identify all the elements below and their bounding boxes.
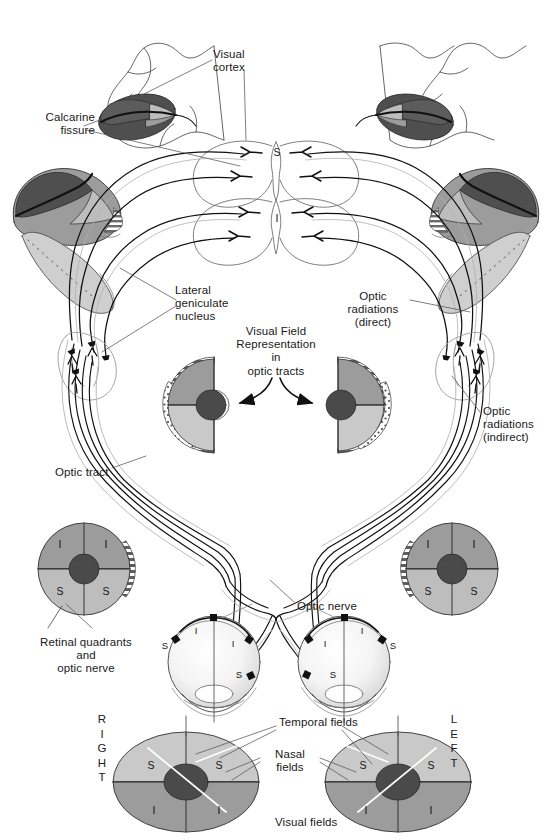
field-left-marker-s-2: S — [212, 760, 226, 771]
label-optic-radiations-direct: Optic radiations (direct) — [330, 290, 416, 330]
cortex-marker-superior: S — [270, 147, 284, 158]
eye-right-marker-s-2: S — [326, 669, 340, 680]
lgn-body-right — [436, 332, 494, 400]
field-left-marker-s-1: S — [144, 760, 158, 771]
lgn-synapses-left — [67, 341, 110, 393]
eyeball-left — [168, 604, 260, 722]
lgn-body-left — [58, 332, 116, 400]
retina-right-marker-s-2: S — [467, 586, 481, 597]
label-visual-cortex: Visual cortex — [213, 48, 245, 74]
eye-right-marker-i-2: I — [318, 638, 332, 649]
eye-left-marker-i-2: I — [226, 638, 240, 649]
visual-field-ellipse-left — [113, 716, 259, 832]
lgn-synapses-right — [442, 341, 485, 393]
label-visual-field-representation: Visual Field Representation in optic tra… — [215, 325, 337, 378]
eye-left-marker-i-1: I — [189, 625, 203, 636]
retina-right-marker-i-1: I — [421, 539, 435, 550]
retina-disc-right — [400, 523, 498, 615]
retina-left-marker-i-1: I — [53, 539, 67, 550]
cortex-marker-inferior: I — [270, 213, 284, 224]
label-lateral-geniculate-nucleus: Lateral geniculate nucleus — [175, 284, 228, 324]
retina-left-marker-s-1: S — [53, 586, 67, 597]
label-right-side: R I G H T — [94, 712, 110, 785]
retina-left-marker-s-2: S — [99, 586, 113, 597]
field-left-marker-i-2: I — [212, 805, 226, 816]
eye-right-marker-s-1: S — [386, 640, 400, 651]
field-left-marker-i-1: I — [147, 805, 161, 816]
eye-left-marker-s-1: S — [158, 640, 172, 651]
field-right-marker-s-1: S — [356, 760, 370, 771]
label-retinal-quadrants: Retinal quadrants and optic nerve — [20, 636, 152, 676]
label-calcarine-fissure: Calcarine fissure — [0, 111, 95, 137]
cortex-fiber-endings — [229, 147, 323, 241]
label-temporal-fields: Temporal fields — [279, 716, 358, 729]
retina-right-marker-s-1: S — [421, 586, 435, 597]
label-visual-fields: Visual fields — [275, 816, 337, 829]
field-right-marker-s-2: S — [424, 760, 438, 771]
right-calcarine-wedge-top — [356, 87, 458, 146]
eyeball-right — [298, 604, 390, 722]
eye-right-marker-i-1: I — [355, 625, 369, 636]
label-left-side: L E F T — [446, 712, 462, 770]
central-cortex-outline — [193, 141, 358, 265]
label-optic-radiations-indirect: Optic radiations (indirect) — [483, 405, 534, 445]
field-right-marker-i-2: I — [424, 805, 438, 816]
visual-field-rep-arrows — [240, 378, 312, 403]
visual-pathway-diagram: Visual cortex Calcarine fissure Lateral … — [0, 0, 552, 840]
retina-left-marker-i-2: I — [99, 539, 113, 550]
retina-right-marker-i-2: I — [467, 539, 481, 550]
label-nasal-fields: Nasal fields — [263, 748, 317, 774]
eye-left-marker-s-2: S — [232, 669, 246, 680]
field-right-marker-i-1: I — [359, 805, 373, 816]
label-optic-nerve: Optic nerve — [297, 600, 357, 613]
left-calcarine-wedge-top — [94, 87, 196, 146]
label-optic-tract: Optic tract — [55, 466, 109, 479]
